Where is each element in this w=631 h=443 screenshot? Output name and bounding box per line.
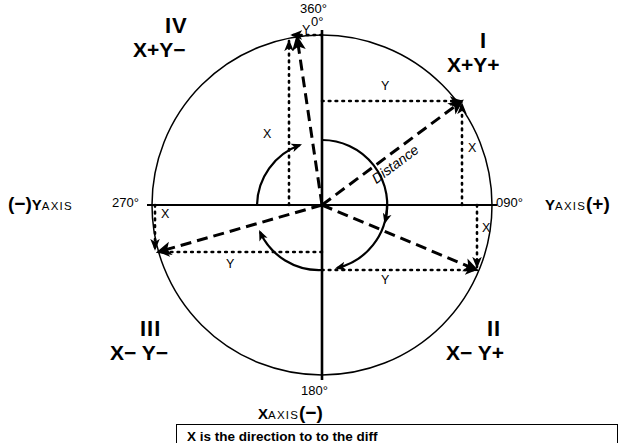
deg-270-label: 270° [112,196,139,209]
quadrant-4-signs: X+Y− [133,39,186,60]
component-y-label-quadrant-3: Y [226,258,234,271]
quadrant-3-numeral: III [140,318,161,340]
vector-quadrant-3 [158,205,322,252]
vector-quadrant-2 [322,205,477,270]
quadrant-1-numeral: I [480,30,487,52]
deg-000-label: 0° [311,15,323,28]
quadrant-2-signs: X− Y+ [446,342,504,363]
component-x-label-quadrant-1: X [468,142,476,155]
y-axis-positive-word: AXIS [555,200,586,212]
quadrant-2-numeral: II [487,318,501,340]
component-x-label-quadrant-2: X [482,222,490,235]
bearing-arc-quadrant-3 [260,232,322,270]
y-axis-negative-letter: Y [32,196,42,213]
component-y-label-quadrant-4: Y [302,24,310,37]
caption-text: X is the direction to to the diff [177,425,617,443]
component-y-label-quadrant-1: Y [381,80,389,93]
x-axis-negative-sign: (−) [299,402,323,423]
y-axis-positive-sign: (+) [586,193,610,214]
y-axis-positive-label: YAXIS(+) [545,194,610,213]
x-axis-negative-word: AXIS [268,409,299,421]
deg-180-label: 180° [301,384,328,397]
y-axis-negative-word: AXIS [42,200,73,212]
x-axis-negative-label: XAXIS(−) [258,403,323,422]
y-axis-negative-sign: (−) [8,193,32,214]
x-axis-negative-letter: X [258,405,268,422]
caption-box: X is the direction to to the diff [176,424,618,443]
component-x-label-quadrant-4: X [263,128,271,141]
vector-quadrant-4 [297,37,322,205]
vector-quadrant-1 [322,101,462,205]
deg-090-label: 090° [496,196,523,209]
quadrant-3-signs: X− Y− [110,342,168,363]
quadrant-4-numeral: IV [165,15,188,37]
component-y-label-quadrant-2: Y [381,274,389,287]
y-axis-positive-letter: Y [545,196,555,213]
quadrant-1-signs: X+Y+ [447,54,500,75]
component-x-label-quadrant-3: X [161,208,169,221]
bearing-arc-quadrant-4 [257,145,300,205]
y-axis-negative-label: (−)YAXIS [8,194,73,213]
